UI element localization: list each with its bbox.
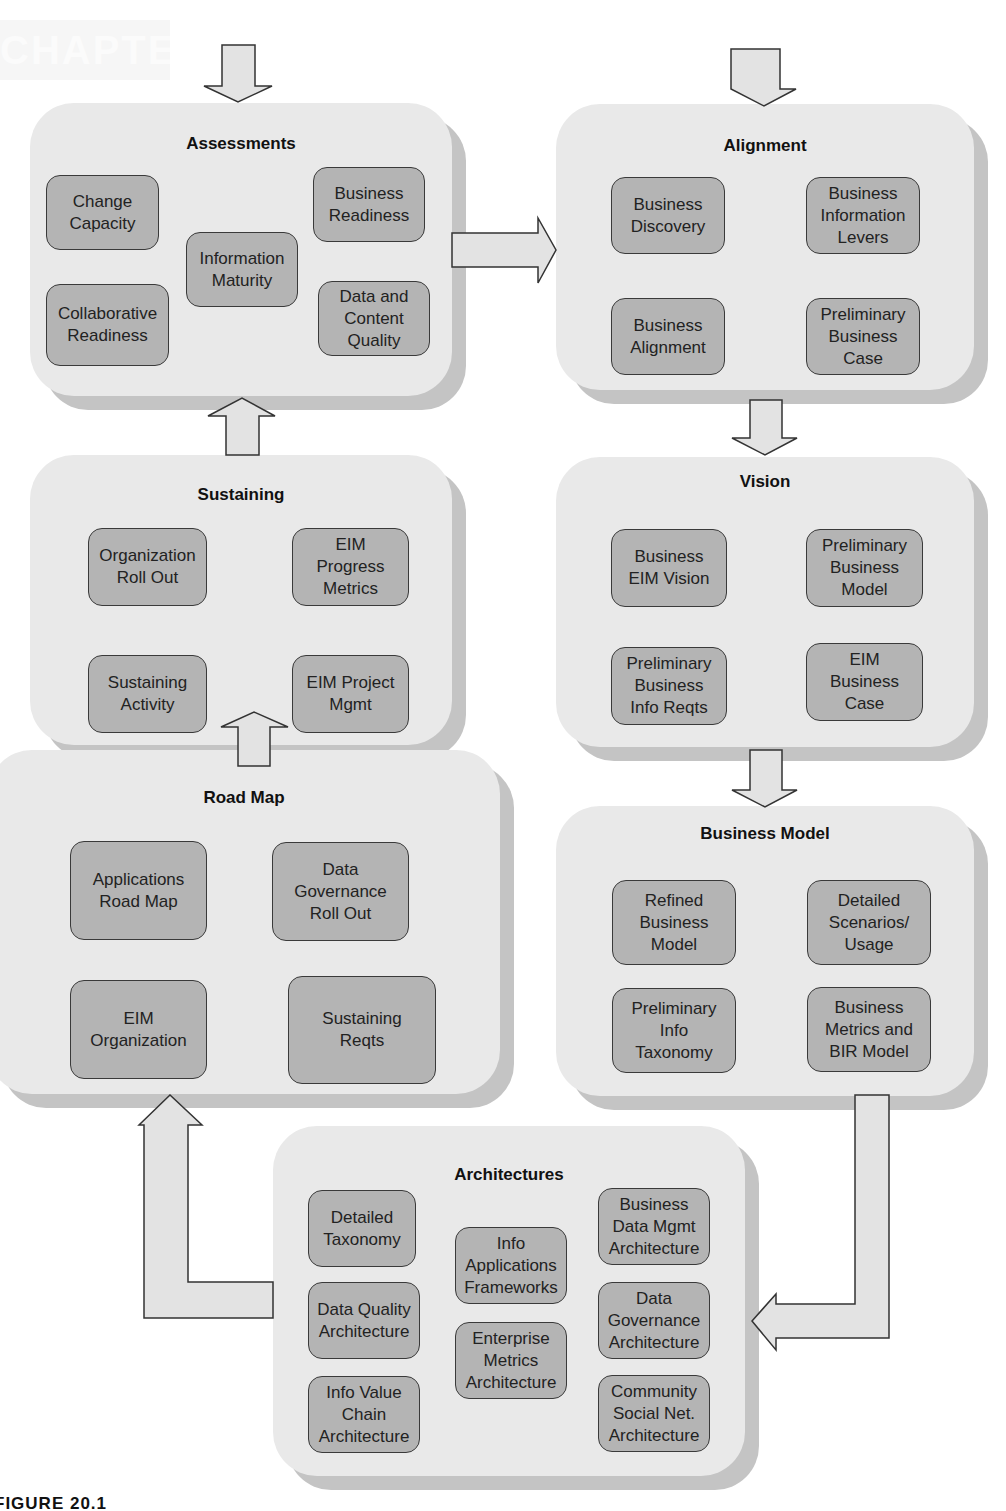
box-info-value-chain-architecture[interactable]: Info Value Chain Architecture (308, 1376, 420, 1453)
panel-title-assessments: Assessments (30, 134, 452, 154)
panel-title-alignment: Alignment (556, 136, 974, 156)
box-eim-project-mgmt[interactable]: EIM Project Mgmt (292, 655, 409, 733)
box-eim-progress-metrics[interactable]: EIM Progress Metrics (292, 528, 409, 606)
panel-title-business-model: Business Model (556, 824, 974, 844)
box-enterprise-metrics-architecture[interactable]: Enterprise Metrics Architecture (455, 1322, 567, 1399)
box-business-discovery[interactable]: Business Discovery (611, 177, 725, 254)
box-preliminary-info-taxonomy[interactable]: Preliminary Info Taxonomy (612, 988, 736, 1073)
box-business-eim-vision[interactable]: Business EIM Vision (611, 529, 727, 607)
arrow-down-alignment-vision-icon (732, 400, 797, 455)
arrow-elbow-architectures-roadmap-icon (139, 1095, 273, 1318)
box-business-information-levers[interactable]: Business Information Levers (806, 177, 920, 254)
box-preliminary-business-case[interactable]: Preliminary Business Case (806, 298, 920, 375)
arrow-right-assessments-alignment-icon (452, 218, 556, 283)
box-detailed-scenarios-usage[interactable]: Detailed Scenarios/ Usage (807, 880, 931, 965)
box-business-readiness[interactable]: Business Readiness (313, 167, 425, 242)
box-sustaining-activity[interactable]: Sustaining Activity (88, 655, 207, 733)
box-eim-business-case[interactable]: EIM Business Case (806, 643, 923, 721)
arrow-down-entry-alignment-icon (731, 49, 796, 106)
box-preliminary-business-model[interactable]: Preliminary Business Model (806, 529, 923, 607)
box-detailed-taxonomy[interactable]: Detailed Taxonomy (308, 1190, 416, 1267)
box-business-data-mgmt-architecture[interactable]: Business Data Mgmt Architecture (598, 1188, 710, 1265)
box-applications-road-map[interactable]: Applications Road Map (70, 841, 207, 940)
box-data-governance-roll-out[interactable]: Data Governance Roll Out (272, 842, 409, 941)
panel-title-sustaining: Sustaining (30, 485, 452, 505)
box-business-alignment[interactable]: Business Alignment (611, 298, 725, 375)
panel-title-road-map: Road Map (0, 788, 500, 808)
box-sustaining-reqts[interactable]: Sustaining Reqts (288, 976, 436, 1084)
arrow-up-sustaining-assessments-icon (208, 398, 275, 455)
box-organization-roll-out[interactable]: Organization Roll Out (88, 528, 207, 606)
box-info-applications-frameworks[interactable]: Info Applications Frameworks (455, 1227, 567, 1304)
box-eim-organization[interactable]: EIM Organization (70, 980, 207, 1079)
arrow-elbow-business-model-architectures-icon (752, 1095, 889, 1350)
figure-caption: FIGURE 20.1 (0, 1494, 107, 1511)
box-community-social-net-architecture[interactable]: Community Social Net. Architecture (598, 1375, 710, 1452)
box-data-content-quality[interactable]: Data and Content Quality (318, 281, 430, 356)
box-business-metrics-bir-model[interactable]: Business Metrics and BIR Model (807, 987, 931, 1072)
box-information-maturity[interactable]: Information Maturity (186, 232, 298, 307)
box-change-capacity[interactable]: Change Capacity (46, 175, 159, 250)
box-data-quality-architecture[interactable]: Data Quality Architecture (308, 1282, 420, 1359)
box-collaborative-readiness[interactable]: Collaborative Readiness (46, 284, 169, 366)
arrow-down-vision-business-model-icon (732, 750, 797, 807)
panel-title-vision: Vision (556, 472, 974, 492)
panel-title-architectures: Architectures (273, 1165, 745, 1185)
background-watermark: CHAPTER (0, 20, 170, 80)
box-preliminary-business-info-reqts[interactable]: Preliminary Business Info Reqts (611, 647, 727, 725)
box-refined-business-model[interactable]: Refined Business Model (612, 880, 736, 965)
box-data-governance-architecture[interactable]: Data Governance Architecture (598, 1282, 710, 1359)
arrow-down-entry-assessments-icon (204, 45, 272, 102)
